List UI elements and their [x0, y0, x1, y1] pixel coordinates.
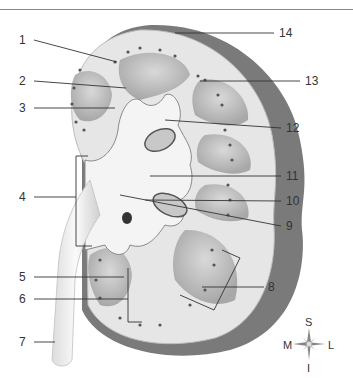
label-7: 7 — [19, 336, 26, 348]
label-6: 6 — [19, 293, 26, 305]
compass-rose — [293, 328, 325, 360]
label-5: 5 — [19, 271, 26, 283]
compass-medial: M — [283, 339, 292, 351]
compass-superior: S — [305, 316, 312, 328]
kidney-illustration — [0, 0, 353, 390]
label-12: 12 — [286, 122, 299, 134]
label-4: 4 — [19, 191, 26, 203]
label-9: 9 — [286, 220, 293, 232]
compass-inferior: I — [307, 362, 310, 374]
label-13: 13 — [305, 75, 318, 87]
label-3: 3 — [19, 102, 26, 114]
label-2: 2 — [19, 75, 26, 87]
label-1: 1 — [19, 34, 26, 46]
label-11: 11 — [286, 170, 298, 182]
label-10: 10 — [286, 195, 299, 207]
label-8: 8 — [268, 281, 275, 293]
label-14: 14 — [279, 27, 292, 39]
compass-lateral: L — [328, 339, 334, 351]
